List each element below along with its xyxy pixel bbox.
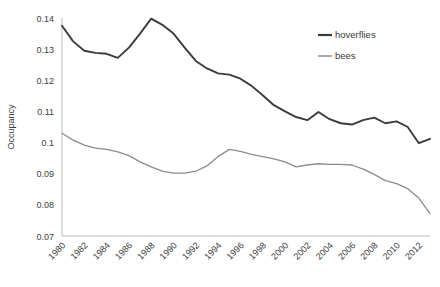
x-axis-tick-label: 1994: [202, 240, 223, 261]
legend-label-hoverflies: hoverflies: [335, 29, 376, 40]
y-axis-tick-label: 0.12: [36, 76, 54, 86]
x-axis-tick-label: 2000: [269, 240, 290, 261]
y-axis-tick-label: 0.07: [36, 232, 54, 242]
chart-canvas: 0.140.130.120.110.10.090.080.07Occupancy…: [0, 0, 440, 287]
x-axis-tick-label: 1980: [46, 240, 67, 261]
y-axis-tick-label: 0.09: [36, 169, 54, 179]
y-axis-tick-label: 0.13: [36, 45, 54, 55]
x-axis-tick-label: 1982: [68, 240, 89, 261]
x-axis-tick-label: 2006: [336, 240, 357, 261]
x-axis-tick-label: 1992: [180, 240, 201, 261]
x-axis-tick-label: 1984: [91, 240, 112, 261]
x-axis-tick-label: 1998: [247, 240, 268, 261]
x-axis-tick-label: 1990: [158, 240, 179, 261]
x-axis-tick-label: 2012: [403, 240, 424, 261]
x-axis-tick-label: 2008: [358, 240, 379, 261]
x-axis-tick-label: 2002: [292, 240, 313, 261]
y-axis-tick-label: 0.14: [36, 14, 54, 24]
x-axis-tick-label: 2010: [381, 240, 402, 261]
x-axis-tick-label: 2004: [314, 240, 335, 261]
x-axis-tick-label: 1988: [135, 240, 156, 261]
series-line-bees: [62, 133, 430, 213]
occupancy-trend-chart: 0.140.130.120.110.10.090.080.07Occupancy…: [0, 0, 440, 287]
legend-label-bees: bees: [335, 50, 356, 61]
y-axis-tick-label: 0.1: [41, 138, 54, 148]
x-axis-tick-label: 1996: [225, 240, 246, 261]
x-axis-tick-label: 1986: [113, 240, 134, 261]
y-axis-title: Occupancy: [6, 104, 16, 150]
y-axis-tick-label: 0.08: [36, 200, 54, 210]
y-axis-tick-label: 0.11: [37, 107, 54, 117]
